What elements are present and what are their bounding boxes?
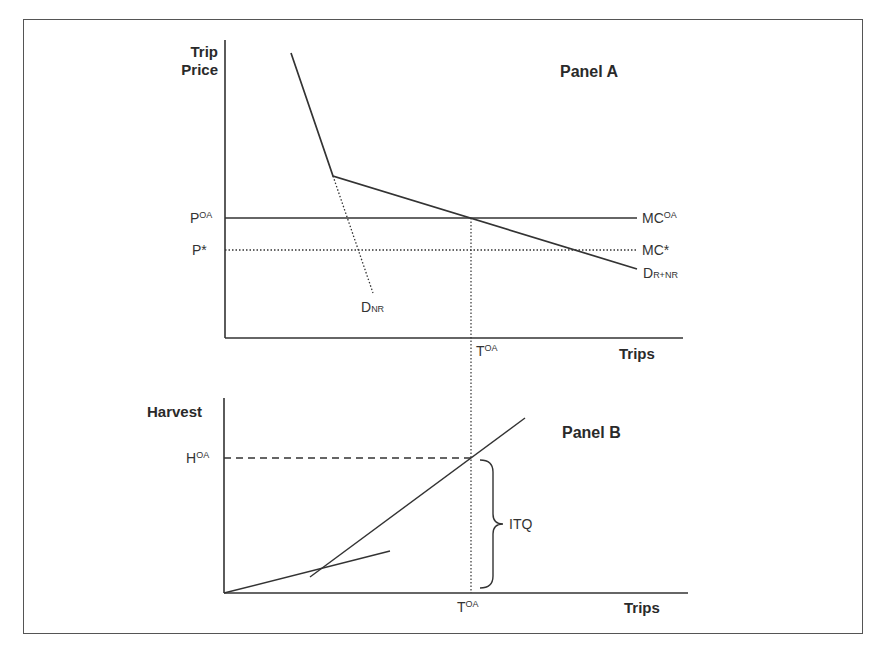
- y-label-line1: Trip: [180, 44, 218, 59]
- panel-a-x-label: Trips: [619, 346, 655, 361]
- itq-bracket: [480, 460, 503, 588]
- label-d-r-nr: DR+NR: [643, 266, 678, 280]
- tick-t-oa-a: TOA: [476, 344, 498, 358]
- demand-r-nr-curve: [291, 53, 637, 269]
- panel-b-x-label: Trips: [624, 600, 660, 615]
- tick-t-oa-b: TOA: [457, 600, 479, 614]
- economics-diagram: [0, 0, 880, 650]
- panel-b-title: Panel B: [562, 425, 621, 441]
- panel-b-y-label: Harvest: [147, 404, 202, 419]
- demand-nr-curve: [333, 176, 373, 293]
- tick-p-oa: POA: [190, 211, 212, 225]
- label-itq: ITQ: [509, 517, 532, 531]
- label-d-nr: DNR: [361, 300, 384, 314]
- panel-a-y-label: Trip Price: [180, 44, 218, 77]
- label-mc-star: MC*: [642, 243, 669, 257]
- panel-a-title: Panel A: [560, 64, 618, 80]
- tick-p-star: P*: [192, 243, 207, 257]
- label-mc-oa: MCOA: [642, 211, 677, 225]
- harvest-low-line: [224, 551, 390, 593]
- y-label-line2: Price: [172, 62, 218, 77]
- tick-h-oa: HOA: [186, 451, 209, 465]
